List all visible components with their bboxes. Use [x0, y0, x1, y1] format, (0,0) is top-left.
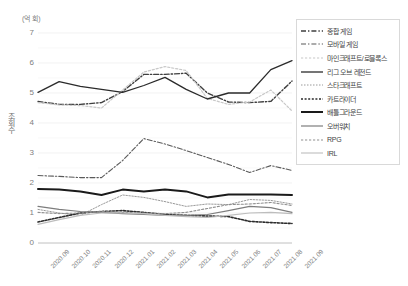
legend-label-3: 리그 오브 레전드	[327, 67, 371, 77]
legend-label-6: 배틀그라운드	[327, 107, 362, 117]
legend-label-8: RPG	[327, 136, 342, 143]
legend-item-6[interactable]: 배틀그라운드	[301, 106, 396, 120]
legend-line-swatch-8	[301, 136, 323, 144]
legend-line-swatch-7	[301, 122, 323, 130]
legend-item-5[interactable]: 카트라이더	[301, 92, 396, 106]
chart-container: (억 회) 조회수 01234567 2020.092020.102020.11…	[0, 0, 408, 286]
legend-label-7: 오버워치	[327, 121, 350, 131]
legend-line-swatch-3	[301, 68, 323, 76]
legend-label-5: 카트라이더	[327, 94, 356, 104]
series-line-6	[38, 189, 292, 197]
series-line-1	[38, 139, 292, 178]
legend-label-4: 스타크래프트	[327, 80, 362, 90]
legend-item-9[interactable]: IRL	[301, 146, 396, 160]
legend-item-0[interactable]: 종합 게임	[301, 24, 396, 38]
legend-item-3[interactable]: 리그 오브 레전드	[301, 65, 396, 79]
legend-line-swatch-2	[301, 54, 323, 62]
chart-legend: 종합 게임모바일 게임마인크래프트/로블록스리그 오브 레전드스타크래프트카트라…	[296, 19, 400, 165]
legend-item-7[interactable]: 오버워치	[301, 119, 396, 133]
legend-item-8[interactable]: RPG	[301, 133, 396, 147]
legend-label-9: IRL	[327, 150, 337, 157]
legend-line-swatch-6	[301, 108, 323, 116]
legend-line-swatch-5	[301, 95, 323, 103]
series-line-8	[38, 203, 292, 214]
legend-line-swatch-9	[301, 149, 323, 157]
legend-line-swatch-0	[301, 27, 323, 35]
legend-item-2[interactable]: 마인크래프트/로블록스	[301, 51, 396, 65]
legend-label-0: 종합 게임	[327, 26, 352, 36]
legend-item-1[interactable]: 모바일 게임	[301, 38, 396, 52]
legend-item-4[interactable]: 스타크래프트	[301, 78, 396, 92]
legend-line-swatch-4	[301, 81, 323, 89]
legend-line-swatch-1	[301, 40, 323, 48]
legend-label-2: 마인크래프트/로블록스	[327, 53, 387, 63]
legend-label-1: 모바일 게임	[327, 39, 358, 49]
